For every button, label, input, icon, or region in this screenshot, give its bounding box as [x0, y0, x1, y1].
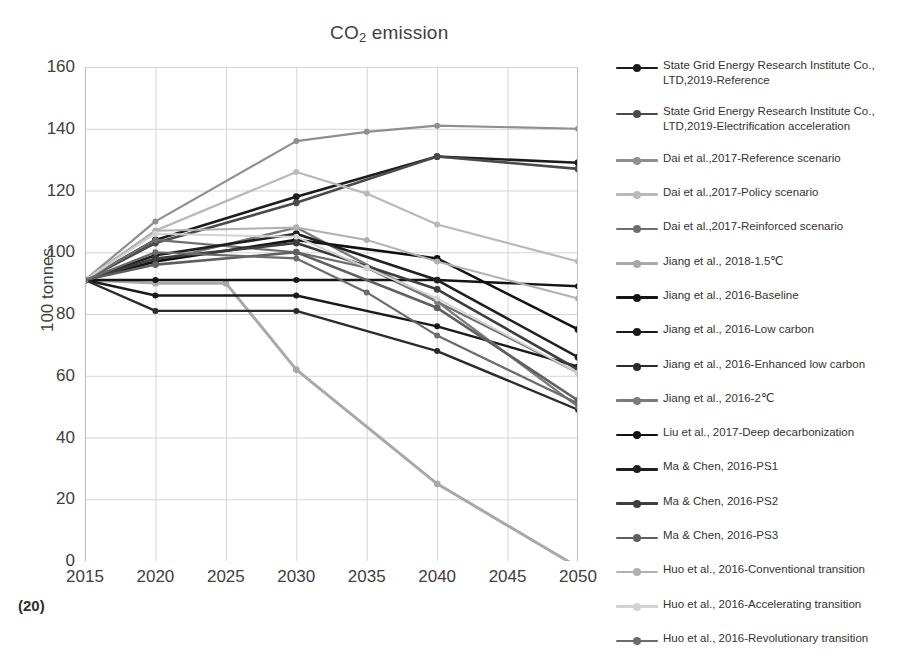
y-axis-tick-label: 120: [47, 181, 75, 201]
series-marker: [434, 480, 441, 487]
legend-item[interactable]: Ma & Chen, 2016-PS2: [616, 494, 902, 512]
legend-swatch-icon: [616, 496, 658, 512]
legend-item[interactable]: Huo et al., 2016-Conventional transition: [616, 562, 902, 580]
series-marker: [434, 259, 440, 265]
legend-item[interactable]: Jiang et al., 2016-Enhanced low carbon: [616, 357, 902, 375]
legend-item[interactable]: Dai et al.,2017-Policy scenario: [616, 185, 902, 203]
series-marker: [434, 323, 440, 329]
legend-item-label: Huo et al., 2016-Conventional transition: [663, 562, 865, 577]
series-marker: [152, 308, 158, 314]
series-marker: [293, 292, 299, 298]
legend-marker-icon: [633, 397, 641, 405]
figure-caption: (20): [18, 597, 45, 614]
legend-swatch-icon: [616, 153, 658, 169]
legend-item[interactable]: Liu et al., 2017-Deep decarbonization: [616, 425, 902, 443]
chart-legend: State Grid Energy Research Institute Co.…: [616, 58, 902, 648]
legend-item-label: Dai et al.,2017-Reinforced scenario: [663, 219, 843, 234]
x-axis-tick-label: 2025: [207, 567, 245, 587]
legend-swatch-icon: [616, 60, 658, 76]
series-marker: [434, 348, 440, 354]
legend-marker-icon: [633, 328, 641, 336]
series-marker: [293, 277, 299, 283]
series-marker: [434, 153, 441, 160]
legend-item[interactable]: Huo et al., 2016-Accelerating transition: [616, 597, 902, 615]
series-marker: [293, 193, 300, 200]
series-marker: [434, 333, 440, 339]
legend-marker-icon: [633, 568, 641, 576]
legend-item-label: Jiang et al., 2018-1.5℃: [663, 254, 783, 269]
plot-area: 020406080100120140160 201520202025203020…: [85, 67, 578, 561]
legend-item[interactable]: Dai et al.,2017-Reinforced scenario: [616, 219, 902, 237]
series-marker: [293, 249, 300, 256]
legend-marker-icon: [633, 225, 641, 233]
series-marker: [434, 296, 440, 302]
legend-swatch-icon: [616, 564, 658, 580]
x-axis-tick-label: 2045: [489, 567, 527, 587]
series-marker: [152, 261, 159, 268]
legend-item-label: Jiang et al., 2016-Baseline: [663, 288, 799, 303]
legend-item[interactable]: Jiang et al., 2016-Baseline: [616, 288, 902, 306]
legend-item-label: Liu et al., 2017-Deep decarbonization: [663, 425, 854, 440]
series-marker: [152, 255, 159, 262]
legend-swatch-icon: [616, 461, 658, 477]
legend-item[interactable]: Jiang et al., 2018-1.5℃: [616, 254, 902, 272]
legend-item[interactable]: Ma & Chen, 2016-PS1: [616, 459, 902, 477]
series-marker: [293, 308, 299, 314]
legend-item-label: State Grid Energy Research Institute Co.…: [663, 58, 895, 88]
y-axis-tick-label: 100: [47, 242, 75, 262]
series-marker: [364, 191, 370, 197]
legend-swatch-icon: [616, 633, 658, 649]
legend-item[interactable]: State Grid Energy Research Institute Co.…: [616, 104, 902, 134]
legend-item[interactable]: Jiang et al., 2016-2℃: [616, 391, 902, 409]
series-marker: [434, 221, 440, 227]
series-marker: [152, 292, 158, 298]
x-axis-tick-label: 2015: [66, 567, 104, 587]
series-marker: [364, 129, 370, 135]
legend-marker-icon: [633, 363, 641, 371]
legend-swatch-icon: [616, 256, 658, 272]
legend-item-label: Dai et al.,2017-Reference scenario: [663, 151, 841, 166]
legend-swatch-icon: [616, 599, 658, 615]
series-marker: [293, 138, 299, 144]
legend-item-label: Dai et al.,2017-Policy scenario: [663, 185, 818, 200]
series-marker: [293, 234, 299, 240]
series-marker: [152, 237, 158, 243]
legend-swatch-icon: [616, 324, 658, 340]
y-axis-tick-label: 80: [56, 304, 75, 324]
legend-swatch-icon: [616, 221, 658, 237]
chart-title-tail: emission: [366, 22, 448, 43]
legend-marker-icon: [633, 431, 641, 439]
legend-swatch-icon: [616, 187, 658, 203]
legend-marker-icon: [633, 191, 641, 199]
y-axis-tick-label: 160: [47, 57, 75, 77]
series-marker: [293, 366, 300, 373]
legend-item[interactable]: Huo et al., 2016-Revolutionary transitio…: [616, 631, 902, 649]
series-marker: [152, 218, 158, 224]
series-marker: [364, 265, 370, 271]
legend-item-label: Ma & Chen, 2016-PS3: [663, 528, 778, 543]
legend-item[interactable]: Dai et al.,2017-Reference scenario: [616, 151, 902, 169]
series-marker: [293, 240, 300, 247]
series-marker: [434, 286, 441, 293]
legend-swatch-icon: [616, 427, 658, 443]
legend-marker-icon: [633, 110, 641, 118]
series-marker: [364, 237, 370, 243]
series-marker: [293, 199, 300, 206]
chart-title: CO2 emission: [330, 22, 448, 44]
series-marker: [152, 277, 158, 283]
legend-item-label: Jiang et al., 2016-Low carbon: [663, 322, 814, 337]
legend-marker-icon: [633, 500, 641, 508]
series-marker: [293, 169, 299, 175]
legend-item[interactable]: Ma & Chen, 2016-PS3: [616, 528, 902, 546]
series-marker: [152, 231, 158, 237]
legend-marker-icon: [633, 157, 641, 165]
legend-item[interactable]: State Grid Energy Research Institute Co.…: [616, 58, 902, 88]
legend-item[interactable]: Jiang et al., 2016-Low carbon: [616, 322, 902, 340]
legend-swatch-icon: [616, 393, 658, 409]
legend-item-label: Huo et al., 2016-Revolutionary transitio…: [663, 631, 868, 646]
x-axis-tick-label: 2020: [137, 567, 175, 587]
legend-marker-icon: [633, 637, 641, 645]
y-axis-tick-label: 60: [56, 366, 75, 386]
chart-title-main: CO: [330, 22, 359, 43]
chart-title-subscript: 2: [359, 30, 366, 45]
